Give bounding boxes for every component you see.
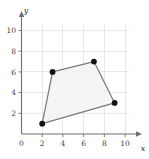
x-tick-label: 4 bbox=[61, 139, 66, 148]
plot-area: 0246810 246810 x y bbox=[0, 0, 149, 159]
x-axis-arrowhead bbox=[136, 131, 142, 136]
x-tick-label: 10 bbox=[120, 139, 130, 148]
y-tick-label: 8 bbox=[11, 47, 16, 56]
data-point-marker bbox=[50, 69, 56, 75]
x-tick-labels: 0246810 bbox=[19, 139, 130, 148]
y-tick-label: 4 bbox=[11, 88, 16, 97]
y-tick-label: 6 bbox=[11, 68, 16, 77]
x-axis-label: x bbox=[141, 144, 146, 153]
chart-figure: 0246810 246810 x y bbox=[0, 0, 149, 159]
x-tick-label: 6 bbox=[81, 139, 86, 148]
y-axis-label: y bbox=[23, 6, 29, 15]
data-point-marker bbox=[91, 59, 97, 65]
y-tick-label: 2 bbox=[11, 109, 16, 118]
x-tick-label: 8 bbox=[102, 139, 107, 148]
x-tick-label: 2 bbox=[40, 139, 45, 148]
data-point-marker bbox=[39, 121, 45, 127]
y-tick-label: 10 bbox=[6, 26, 16, 35]
y-tick-labels: 246810 bbox=[6, 26, 16, 118]
data-point-marker bbox=[112, 100, 118, 106]
x-tick-label: 0 bbox=[19, 139, 24, 148]
